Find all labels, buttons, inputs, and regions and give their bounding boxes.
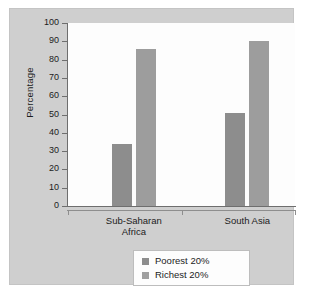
bar-group-container [68, 23, 295, 206]
chart-screenshot: 0102030405060708090100 Percentage Sub-Sa… [0, 0, 311, 293]
legend-swatch-icon [142, 272, 149, 279]
bar [136, 49, 156, 206]
category-label-line: South Asia [192, 215, 302, 226]
legend-label: Richest 20% [155, 270, 208, 280]
bar [112, 144, 132, 206]
category-label-line: Sub-Saharan [79, 215, 189, 226]
y-tick-label: 20 [29, 164, 59, 173]
legend-swatch-icon [142, 258, 149, 265]
y-axis-title: Percentage [24, 53, 35, 133]
category-label: South Asia [192, 215, 302, 226]
category-label-line: Africa [79, 226, 189, 237]
y-tick-mark [62, 206, 67, 207]
bar [249, 41, 269, 206]
y-tick-mark [62, 115, 67, 116]
legend-item[interactable]: Richest 20% [142, 268, 249, 282]
x-axis-line [67, 206, 296, 207]
y-tick-label: 10 [29, 183, 59, 192]
y-tick-label: 90 [29, 36, 59, 45]
category-tick-mark [68, 210, 69, 215]
chart-panel: 0102030405060708090100 Percentage Sub-Sa… [9, 8, 294, 285]
y-tick-mark [62, 60, 67, 61]
legend: Poorest 20%Richest 20% [133, 250, 250, 286]
y-tick-mark [62, 169, 67, 170]
y-tick-label: 0 [29, 201, 59, 210]
y-tick-mark [62, 78, 67, 79]
y-tick-mark [62, 41, 67, 42]
legend-item[interactable]: Poorest 20% [142, 254, 249, 268]
legend-label: Poorest 20% [155, 256, 209, 266]
category-label: Sub-SaharanAfrica [79, 215, 189, 237]
y-tick-mark [62, 188, 67, 189]
y-tick-mark [62, 23, 67, 24]
y-tick-label: 100 [29, 18, 59, 27]
bar [225, 113, 245, 206]
y-tick-mark [62, 133, 67, 134]
y-tick-label: 30 [29, 146, 59, 155]
y-tick-mark [62, 96, 67, 97]
y-tick-mark [62, 151, 67, 152]
